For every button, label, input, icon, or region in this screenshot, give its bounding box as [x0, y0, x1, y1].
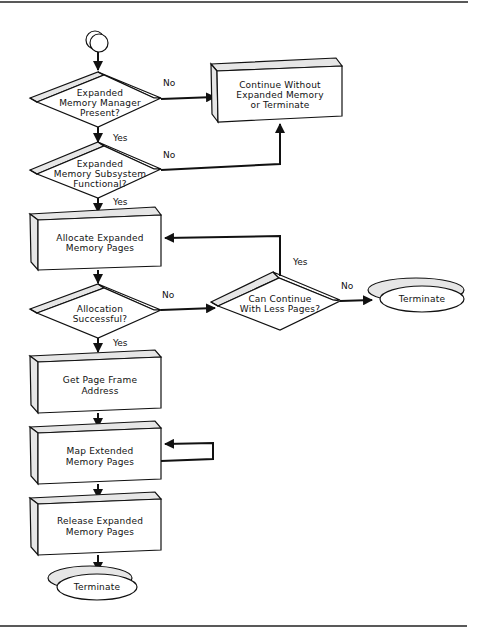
process-label: Expanded Memory [236, 90, 324, 100]
edge-label-no: No [341, 281, 354, 291]
decision-memory-manager-present: Expanded Memory Manager Present? [30, 72, 161, 127]
edge-d4-terminate [340, 300, 372, 301]
terminator-label: Terminate [73, 582, 121, 592]
process-label: Get Page Frame [63, 375, 138, 385]
decision-label: Expanded [77, 159, 124, 169]
decision-allocation-successful: Allocation Successful? [30, 284, 161, 338]
edge-label-no: No [162, 290, 175, 300]
terminator-label: Terminate [398, 294, 446, 304]
terminator-bottom: Terminate [48, 566, 137, 600]
process-label: Memory Pages [66, 527, 134, 537]
decision-label: Memory Manager [59, 98, 141, 108]
start-connector [86, 31, 108, 52]
decision-memory-subsystem-functional: Expanded Memory Subsystem Functional? [30, 142, 161, 198]
process-label: Allocate Expanded [56, 233, 143, 243]
process-continue-without-expanded-memory: Continue Without Expanded Memory or Term… [211, 58, 342, 122]
process-label: Map Extended [67, 446, 134, 456]
process-label: Continue Without [239, 80, 321, 90]
process-label: or Terminate [250, 100, 309, 110]
decision-can-continue-with-less-pages: Can Continue With Less Pages? [211, 272, 340, 330]
edge-d1-continue [161, 97, 215, 99]
decision-label: Can Continue [248, 294, 311, 304]
decision-label: Successful? [73, 314, 128, 324]
edge-d4-allocate [165, 236, 280, 276]
process-label: Address [81, 386, 118, 396]
edge-label-yes: Yes [112, 133, 128, 143]
process-release-expanded-memory-pages: Release Expanded Memory Pages [30, 492, 161, 555]
decision-label: Functional? [73, 179, 126, 189]
decision-label: Allocation [77, 304, 123, 314]
decision-label: With Less Pages? [240, 304, 320, 314]
process-map-extended-memory-pages: Map Extended Memory Pages [30, 421, 161, 484]
process-get-page-frame-address: Get Page Frame Address [30, 350, 161, 413]
edge-label-no: No [163, 150, 176, 160]
edge-d2-continue [161, 124, 280, 170]
decision-label: Expanded [77, 88, 124, 98]
edge-d3-d4 [161, 308, 215, 310]
edge-label-no: No [163, 78, 176, 88]
edge-map-loop [161, 443, 213, 461]
process-label: Release Expanded [57, 516, 143, 526]
decision-label: Present? [80, 108, 120, 118]
flowchart: Expanded Memory Manager Present? No Yes … [0, 0, 486, 631]
edge-label-yes: Yes [112, 338, 128, 348]
edge-label-yes: Yes [292, 257, 308, 267]
process-label: Memory Pages [66, 457, 134, 467]
process-allocate-expanded-memory-pages: Allocate Expanded Memory Pages [30, 207, 161, 270]
terminator-right: Terminate [368, 278, 464, 312]
process-label: Memory Pages [66, 243, 134, 253]
edge-label-yes: Yes [112, 197, 128, 207]
decision-label: Memory Subsystem [54, 169, 146, 179]
